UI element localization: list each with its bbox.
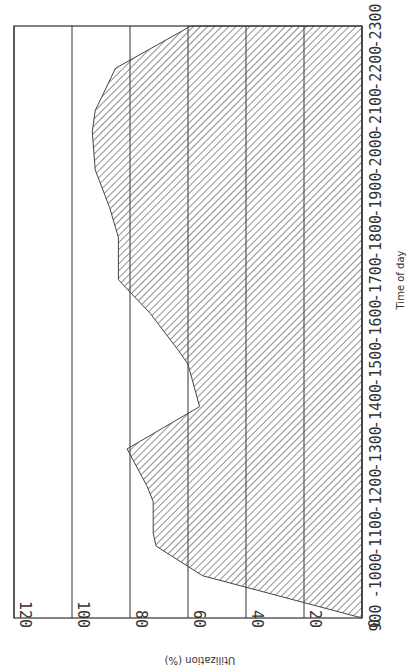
value-tick-label: 40	[248, 610, 266, 628]
value-tick-label: 60	[190, 610, 208, 628]
value-tick-label: 20	[306, 610, 324, 628]
time-tick-label: -1200	[367, 469, 385, 514]
time-tick-label: -1600	[367, 299, 385, 344]
value-tick-label: 80	[132, 610, 150, 628]
value-tick-label: 100	[74, 601, 92, 628]
value-tick-label: 120	[16, 601, 34, 628]
time-axis-tick-labels: 900-1000-1100-1200-1300-1400-1500-1600-1…	[367, 3, 385, 631]
value-axis-title: Utilization (%)	[165, 655, 236, 666]
utilization-area-chart: 020406080100120 900-1000-1100-1200-1300-…	[0, 0, 411, 670]
time-tick-label: -1900	[367, 173, 385, 218]
time-tick-label: -1100	[367, 511, 385, 556]
time-tick-label: -2000	[367, 130, 385, 175]
time-tick-label: -1500	[367, 342, 385, 387]
time-axis-title: Time of day	[395, 250, 406, 310]
time-tick-label: -1300	[367, 426, 385, 471]
time-tick-label: -2200	[367, 46, 385, 91]
utilization-area	[92, 26, 362, 618]
time-tick-label: -1700	[367, 257, 385, 302]
time-tick-label: -2100	[367, 88, 385, 133]
time-tick-label: -1800	[367, 215, 385, 260]
time-tick-label: 900	[367, 604, 385, 631]
time-tick-label: -1000	[367, 553, 385, 598]
time-tick-label: -1400	[367, 384, 385, 429]
time-tick-label: -2300	[367, 3, 385, 48]
